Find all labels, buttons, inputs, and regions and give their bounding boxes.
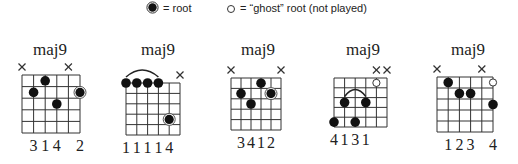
finger-dot bbox=[40, 76, 50, 86]
finger-number: 3 bbox=[351, 131, 359, 149]
finger-number: 1 bbox=[133, 139, 141, 157]
finger-number: 3 bbox=[467, 136, 475, 154]
root-dot-icon bbox=[146, 1, 159, 14]
finger-number: 3 bbox=[237, 134, 245, 152]
chord-diagram-4: maj9 4131 bbox=[313, 36, 413, 164]
finger-dot bbox=[466, 89, 476, 99]
finger-dot bbox=[143, 78, 153, 88]
ghost-root-icon bbox=[226, 1, 236, 14]
barre-arc bbox=[126, 70, 158, 77]
root-dot-icon bbox=[265, 88, 277, 100]
ghost-root-icon bbox=[373, 79, 380, 86]
finger-dot bbox=[29, 88, 39, 98]
ghost-root-icon bbox=[489, 79, 496, 86]
finger-number: 1 bbox=[154, 139, 162, 157]
legend: = root = “ghost” root (not played) bbox=[0, 0, 518, 20]
finger-number: 3 bbox=[30, 137, 38, 155]
legend-root: = root bbox=[146, 1, 191, 14]
finger-number: 1 bbox=[341, 131, 349, 149]
chord-diagram-1: maj9 3142 bbox=[0, 36, 100, 164]
chord-diagram-5: maj9 1234 bbox=[418, 36, 518, 164]
finger-number: 1 bbox=[144, 139, 152, 157]
finger-number: 4 bbox=[247, 134, 255, 152]
root-dot-icon bbox=[74, 86, 86, 98]
finger-dot bbox=[361, 98, 371, 108]
finger-dot bbox=[121, 78, 131, 88]
finger-dot bbox=[132, 78, 142, 88]
finger-dot bbox=[455, 89, 465, 99]
muted-string-icon bbox=[19, 64, 26, 71]
root-dot-icon bbox=[163, 113, 175, 125]
finger-number: 1 bbox=[122, 139, 130, 157]
finger-number: 1 bbox=[444, 136, 452, 154]
muted-string-icon bbox=[228, 67, 235, 74]
finger-dot bbox=[154, 78, 164, 88]
finger-dot bbox=[236, 89, 246, 99]
finger-dot bbox=[340, 98, 350, 108]
finger-number: 2 bbox=[76, 137, 84, 155]
legend-ghost-label: = “ghost” root (not played) bbox=[240, 2, 367, 14]
finger-number: 4 bbox=[330, 131, 338, 149]
muted-string-icon bbox=[278, 67, 285, 74]
chord-diagram-2: maj9 11114 bbox=[108, 36, 208, 164]
muted-string-icon bbox=[384, 67, 391, 74]
legend-ghost: = “ghost” root (not played) bbox=[226, 1, 367, 14]
finger-dot bbox=[246, 99, 256, 109]
finger-number: 4 bbox=[489, 136, 497, 154]
finger-number: 1 bbox=[257, 134, 265, 152]
finger-dot bbox=[52, 99, 62, 109]
finger-dot bbox=[256, 78, 266, 88]
finger-number: 2 bbox=[455, 136, 463, 154]
finger-number: 2 bbox=[267, 134, 275, 152]
muted-string-icon bbox=[65, 64, 72, 71]
muted-string-icon bbox=[478, 66, 485, 73]
fretboard-grid bbox=[0, 36, 100, 164]
legend-root-label: = root bbox=[163, 2, 191, 14]
muted-string-icon bbox=[434, 66, 441, 73]
finger-dot bbox=[443, 78, 453, 88]
finger-dot bbox=[350, 117, 360, 127]
finger-number: 1 bbox=[41, 137, 49, 155]
finger-dot bbox=[488, 100, 498, 110]
finger-number: 4 bbox=[53, 137, 61, 155]
finger-dot bbox=[329, 117, 339, 127]
chord-diagram-3: maj9 3412 bbox=[208, 36, 308, 164]
muted-string-icon bbox=[373, 67, 380, 74]
muted-string-icon bbox=[177, 72, 184, 79]
finger-number: 4 bbox=[165, 139, 173, 157]
finger-number: 1 bbox=[362, 131, 370, 149]
